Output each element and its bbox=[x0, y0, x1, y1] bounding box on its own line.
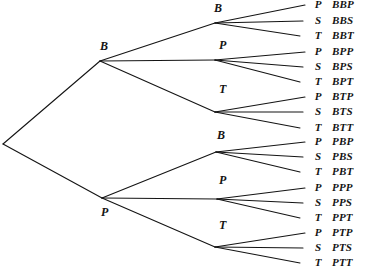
leaf-letter-BTP: P bbox=[311, 91, 325, 102]
outcome-label-BBS: BBS bbox=[332, 15, 353, 26]
leaf-letter-BTS: S bbox=[311, 106, 325, 117]
node-label-BT: T bbox=[219, 83, 226, 95]
branch-BB-to-BBS bbox=[215, 21, 303, 23]
node-label-PT: T bbox=[219, 219, 226, 231]
outcome-label-BBT: BBT bbox=[332, 30, 354, 41]
node-label-BP: P bbox=[219, 39, 226, 51]
branch-BP-to-BPP bbox=[215, 52, 305, 60]
outcome-label-PPT: PPT bbox=[332, 212, 353, 223]
leaf-letter-PBT: T bbox=[311, 166, 325, 177]
branch-B-to-BB bbox=[100, 23, 215, 61]
node-label-BB: B bbox=[214, 2, 222, 14]
outcome-label-PBP: PBP bbox=[332, 136, 353, 147]
leaf-letter-BBS: S bbox=[311, 15, 325, 26]
outcome-label-PPS: PPS bbox=[332, 197, 352, 208]
outcome-label-PBS: PBS bbox=[332, 151, 353, 162]
branch-P-to-PB bbox=[102, 152, 216, 198]
branch-BB-to-BBP bbox=[215, 5, 305, 23]
leaf-letter-PTT: T bbox=[311, 257, 325, 267]
branch-root-to-P bbox=[3, 144, 102, 198]
branch-PB-to-PBS bbox=[216, 152, 303, 157]
branch-line-layer bbox=[3, 5, 305, 263]
outcome-label-PTS: PTS bbox=[332, 242, 352, 253]
outcome-label-BTP: BTP bbox=[332, 91, 353, 102]
leaf-letter-BTT: T bbox=[311, 122, 325, 133]
branch-BT-to-BTP bbox=[215, 97, 305, 112]
outcome-label-BTS: BTS bbox=[332, 106, 353, 117]
leaf-letter-BBP: P bbox=[311, 0, 325, 10]
outcome-label-BPP: BPP bbox=[332, 46, 353, 57]
leaf-letter-PPT: T bbox=[311, 212, 325, 223]
leaf-letter-PTS: S bbox=[311, 242, 325, 253]
leaf-letter-PBP: P bbox=[311, 136, 325, 147]
branch-B-to-BT bbox=[100, 61, 215, 112]
node-label-P: P bbox=[101, 206, 108, 218]
branch-BT-to-BTT bbox=[215, 112, 300, 128]
outcome-label-PBT: PBT bbox=[332, 166, 353, 177]
branch-PT-to-PTP bbox=[215, 233, 305, 247]
leaf-letter-PBS: S bbox=[311, 151, 325, 162]
leaf-letter-PPP: P bbox=[311, 182, 325, 193]
branch-PB-to-PBP bbox=[216, 142, 305, 152]
node-label-PP: P bbox=[219, 174, 226, 186]
branch-P-to-PT bbox=[102, 198, 215, 247]
leaf-letter-PPS: S bbox=[311, 197, 325, 208]
node-label-B: B bbox=[100, 40, 108, 52]
leaf-letter-BPP: P bbox=[311, 46, 325, 57]
probability-tree-diagram: BPBPTBPTPBBPSBBSTBBTPBPPSBPSTBPTPBTPSBTS… bbox=[0, 0, 371, 267]
branch-PT-to-PTT bbox=[215, 247, 300, 263]
leaf-letter-PTP: P bbox=[311, 227, 325, 238]
leaf-letter-BBT: T bbox=[311, 30, 325, 41]
node-label-PB: B bbox=[217, 129, 225, 141]
branch-P-to-PP bbox=[102, 198, 217, 199]
branch-PB-to-PBT bbox=[216, 152, 300, 172]
outcome-label-BTT: BTT bbox=[332, 122, 353, 133]
branch-B-to-BP bbox=[100, 60, 215, 61]
branch-BB-to-BBT bbox=[215, 23, 300, 36]
outcome-label-BPT: BPT bbox=[332, 76, 353, 87]
outcome-label-PTP: PTP bbox=[332, 227, 353, 238]
outcome-label-PPP: PPP bbox=[332, 182, 353, 193]
branch-PT-to-PTS bbox=[215, 247, 303, 248]
branch-root-to-B bbox=[3, 61, 100, 144]
leaf-letter-BPS: S bbox=[311, 61, 325, 72]
leaf-letter-BPT: T bbox=[311, 76, 325, 87]
outcome-label-PTT: PTT bbox=[332, 257, 353, 267]
outcome-label-BPS: BPS bbox=[332, 61, 353, 72]
branch-PP-to-PPP bbox=[217, 188, 305, 199]
outcome-label-BBP: BBP bbox=[332, 0, 354, 10]
